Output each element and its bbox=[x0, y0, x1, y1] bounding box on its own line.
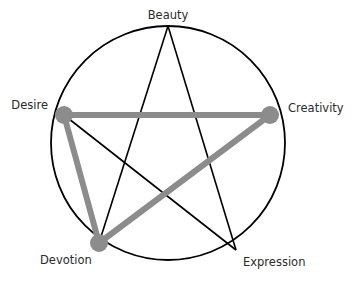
outer-circle bbox=[51, 26, 285, 260]
node-desire bbox=[55, 106, 73, 124]
pentagram-diagram: Beauty Desire Creativity Devotion Expres… bbox=[0, 0, 352, 287]
label-expression: Expression bbox=[243, 255, 305, 269]
highlight-devotion-desire bbox=[64, 115, 99, 243]
label-creativity: Creativity bbox=[288, 101, 344, 115]
edge-devotion-beauty bbox=[99, 26, 168, 243]
label-devotion: Devotion bbox=[40, 253, 92, 267]
label-beauty: Beauty bbox=[148, 8, 189, 22]
highlight-creativity-devotion bbox=[99, 115, 270, 243]
highlighted-triangle bbox=[64, 115, 270, 243]
label-desire: Desire bbox=[11, 98, 48, 112]
node-creativity bbox=[261, 106, 279, 124]
node-devotion bbox=[90, 234, 108, 252]
edge-beauty-expression bbox=[168, 26, 236, 250]
